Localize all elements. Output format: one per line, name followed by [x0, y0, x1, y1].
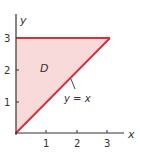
x-tick-label-3: 3 [104, 138, 110, 149]
y-tick-label-1: 1 [4, 97, 10, 108]
y-tick-label-2: 2 [4, 65, 10, 76]
x-tick-label-1: 1 [43, 138, 49, 149]
region-diagram: y x 1 2 3 1 2 3 D y = x [0, 0, 142, 155]
y-axis-label: y [19, 14, 27, 27]
x-axis-label: x [127, 128, 135, 141]
x-tick-label-2: 2 [74, 138, 80, 149]
curve-label-leader [71, 79, 75, 89]
curve-label: y = x [63, 93, 91, 104]
y-tick-label-3: 3 [4, 33, 10, 44]
region-label: D [40, 62, 48, 75]
